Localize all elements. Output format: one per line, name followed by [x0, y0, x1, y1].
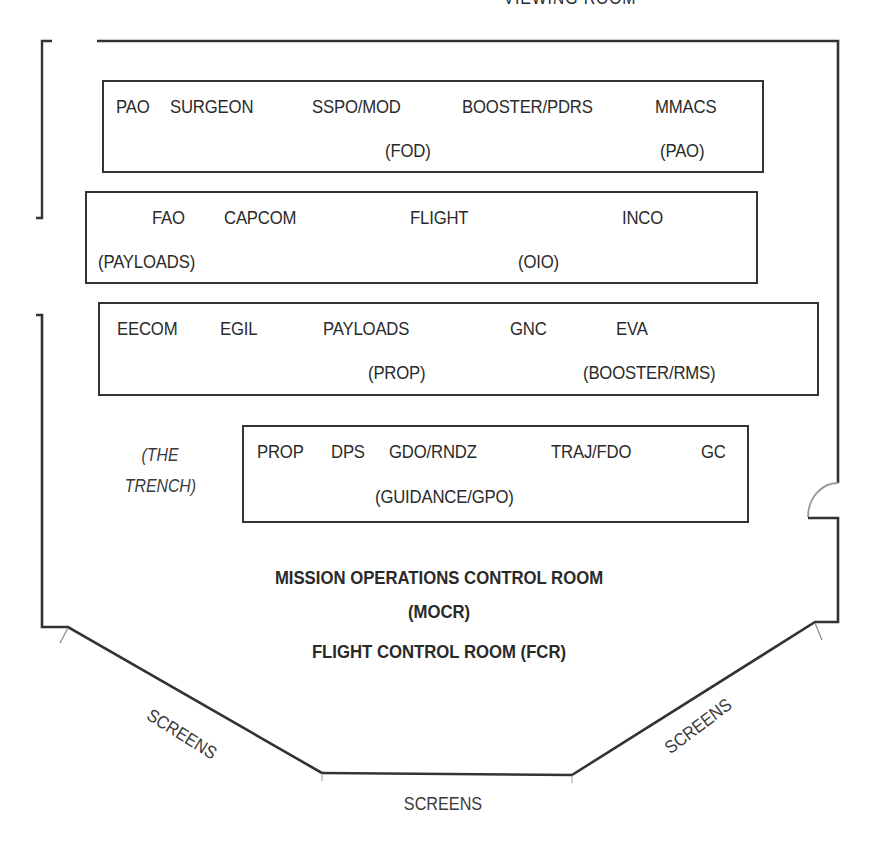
console-booster-pdrs: BOOSTER/PDRS — [462, 96, 593, 118]
room-title: MISSION OPERATIONS CONTROL ROOM — [175, 567, 703, 589]
upper-left-wall — [36, 41, 52, 218]
console-payloads-prop: (PROP) — [368, 362, 425, 384]
room-subtitle: FLIGHT CONTROL ROOM (FCR) — [175, 641, 703, 663]
console-traj-fdo: TRAJ/FDO — [551, 441, 631, 463]
console-eecom: EECOM — [117, 318, 177, 340]
console-flight: FLIGHT — [410, 207, 468, 229]
bottom-wall — [322, 773, 572, 775]
console-gnc: GNC — [510, 318, 547, 340]
console-gc: GC — [701, 441, 726, 463]
door-arc-icon — [808, 483, 838, 517]
screens-bottom-label: SCREENS — [376, 794, 511, 815]
console-eva: EVA — [616, 318, 648, 340]
trench-label-line1: (THE — [125, 445, 195, 466]
console-egil: EGIL — [220, 318, 257, 340]
console-prop: PROP — [257, 441, 304, 463]
console-eva-booster-rms: (BOOSTER/RMS) — [583, 362, 715, 384]
console-surgeon: SURGEON — [170, 96, 253, 118]
console-sspo-mod: SSPO/MOD — [312, 96, 401, 118]
console-fao-payloads: (PAYLOADS) — [98, 251, 195, 273]
console-fao: FAO — [152, 207, 185, 229]
console-mmacs-pao: (PAO) — [660, 140, 704, 162]
console-pao: PAO — [116, 96, 150, 118]
console-fod: (FOD) — [385, 140, 431, 162]
corner-tick-right — [815, 623, 822, 640]
room-title-abbrev: (MOCR) — [175, 601, 703, 623]
console-inco: INCO — [622, 207, 663, 229]
console-row-4 — [242, 425, 749, 523]
console-guidance-gpo: (GUIDANCE/GPO) — [375, 486, 514, 508]
trench-label-line2: TRENCH) — [125, 476, 195, 497]
corner-tick-left — [60, 628, 68, 643]
console-oio: (OIO) — [518, 251, 559, 273]
viewing-room-label: VIEWING ROOM — [482, 0, 658, 9]
console-mmacs: MMACS — [655, 96, 716, 118]
console-gdo-rndz: GDO/RNDZ — [389, 441, 477, 463]
console-dps: DPS — [331, 441, 365, 463]
console-capcom: CAPCOM — [224, 207, 296, 229]
console-payloads: PAYLOADS — [323, 318, 409, 340]
